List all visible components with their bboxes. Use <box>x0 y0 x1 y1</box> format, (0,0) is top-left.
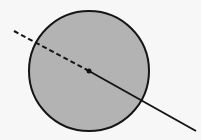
center-point <box>87 69 92 74</box>
diagram-canvas <box>0 0 201 140</box>
